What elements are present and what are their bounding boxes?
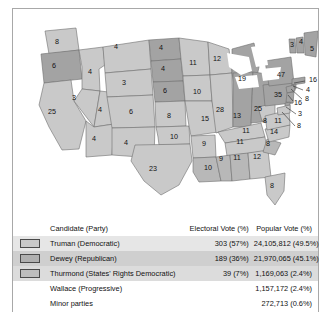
- header-electoral-vote: Electoral Vote (%): [188, 214, 254, 236]
- electoral-votes-tn: 11: [236, 137, 243, 146]
- candidate-name-dewey: Dewey (Republican): [47, 251, 187, 266]
- electoral-votes-il: 28: [216, 105, 224, 114]
- table-row: Wallace (Progressive)1,157,172 (2.4%): [13, 281, 318, 296]
- electoral-votes-sc: 8: [266, 139, 270, 148]
- state-sd: [151, 59, 183, 82]
- electoral-votes-mn: 11: [189, 58, 196, 67]
- electoral-vote-truman: 303 (57%): [188, 236, 254, 251]
- map-container: 8625434443644468102311101591012281913251…: [13, 9, 318, 214]
- popular-vote-truman: 24,105,812 (49.5%): [254, 236, 318, 251]
- electoral-votes-mi: 19: [238, 74, 246, 83]
- electoral-votes-wv: 8: [263, 116, 267, 125]
- electoral-votes-al: 11: [233, 153, 240, 162]
- electoral-votes-ia: 10: [193, 87, 201, 96]
- electoral-vote-wallace: [188, 281, 254, 296]
- electoral-votes-ct: 8: [305, 94, 309, 103]
- candidate-name-minor: Minor parties: [47, 296, 187, 311]
- electoral-votes-va: 11: [274, 116, 281, 125]
- candidate-name-thurmond: Thurmond (States' Rights Democratic): [47, 266, 187, 281]
- table-header-row: Candidate (Party) Electoral Vote (%) Pop…: [13, 214, 318, 236]
- electoral-votes-nc: 14: [270, 127, 278, 136]
- popular-vote-wallace: 1,157,172 (2.4%): [254, 281, 318, 296]
- electoral-votes-ma: 16: [309, 75, 317, 84]
- header-swatch-spacer: [13, 214, 47, 236]
- legend-swatch-cell: [13, 236, 47, 251]
- electoral-votes-nj: 16: [294, 98, 302, 107]
- electoral-votes-oh: 25: [254, 104, 262, 113]
- legend-swatch-cell: [13, 281, 47, 296]
- electoral-votes-wy: 3: [122, 78, 126, 87]
- electoral-vote-thurmond: 39 (7%): [188, 266, 254, 281]
- electoral-votes-de: 3: [298, 109, 302, 118]
- electoral-votes-pa: 35: [274, 90, 282, 99]
- electoral-votes-ok: 10: [170, 132, 178, 141]
- table-row: Minor parties272,713 (0.6%): [13, 296, 318, 311]
- electoral-votes-ms: 9: [219, 154, 223, 163]
- state-or: [41, 50, 82, 83]
- electoral-votes-wi: 12: [213, 54, 221, 63]
- state-az: [86, 121, 114, 157]
- electoral-votes-az: 4: [92, 134, 96, 143]
- electoral-votes-ar: 9: [202, 139, 206, 148]
- electoral-vote-minor: [188, 296, 254, 311]
- results-table-container: Candidate (Party) Electoral Vote (%) Pop…: [13, 214, 318, 312]
- popular-vote-thurmond: 1,169,063 (2.4%): [254, 266, 318, 281]
- table-row: Dewey (Republican)189 (36%)21,970,065 (4…: [13, 251, 318, 266]
- electoral-votes-me: 5: [310, 44, 314, 53]
- popular-vote-dewey: 21,970,065 (45.1%): [254, 251, 318, 266]
- electoral-votes-ny: 47: [277, 70, 285, 79]
- electoral-votes-nd: 4: [159, 43, 163, 52]
- electoral-votes-tx: 23: [149, 164, 157, 173]
- electoral-votes-ca: 25: [48, 107, 56, 116]
- electoral-votes-la: 10: [204, 163, 212, 172]
- header-candidate: Candidate (Party): [47, 214, 187, 236]
- popular-vote-minor: 272,713 (0.6%): [254, 296, 318, 311]
- electoral-votes-mo: 15: [201, 114, 209, 123]
- legend-swatch-cell: [13, 266, 47, 281]
- electoral-votes-wa: 8: [55, 37, 59, 46]
- electoral-votes-ks: 8: [167, 111, 171, 120]
- electoral-votes-nm: 4: [124, 138, 128, 147]
- election-figure: 8625434443644468102311101591012281913251…: [12, 8, 319, 312]
- legend-swatch-cell: [13, 251, 47, 266]
- electoral-votes-fl: 8: [270, 181, 274, 190]
- electoral-votes-nv: 3: [72, 93, 76, 102]
- electoral-votes-ky: 11: [242, 126, 249, 135]
- candidate-name-wallace: Wallace (Progressive): [47, 281, 187, 296]
- electoral-votes-id: 4: [88, 67, 92, 76]
- state-wy: [105, 69, 153, 97]
- electoral-votes-ut: 4: [98, 105, 102, 114]
- legend-swatch-thurmond: [20, 269, 40, 278]
- candidate-name-truman: Truman (Democratic): [47, 236, 187, 251]
- united-states-map: 8625434443644468102311101591012281913251…: [13, 9, 318, 214]
- state-wa: [45, 28, 79, 54]
- electoral-votes-vt: 3: [290, 40, 294, 49]
- electoral-votes-ga: 12: [253, 152, 261, 161]
- electoral-votes-co: 6: [129, 107, 133, 116]
- state-nd: [149, 38, 181, 61]
- results-table: Candidate (Party) Electoral Vote (%) Pop…: [13, 214, 318, 311]
- electoral-votes-mt: 4: [114, 42, 118, 51]
- legend-swatch-dewey: [20, 254, 40, 263]
- state-ne: [153, 81, 185, 102]
- electoral-votes-in: 13: [233, 111, 241, 120]
- legend-swatch-truman: [20, 239, 40, 248]
- electoral-votes-or: 6: [52, 61, 56, 70]
- electoral-vote-dewey: 189 (36%): [188, 251, 254, 266]
- electoral-votes-ne: 6: [163, 86, 167, 95]
- electoral-votes-ri: 4: [306, 85, 310, 94]
- electoral-votes-nh: 4: [299, 37, 303, 46]
- electoral-votes-md: 8: [297, 121, 301, 130]
- legend-swatch-cell: [13, 296, 47, 311]
- electoral-votes-sd: 4: [161, 64, 165, 73]
- table-row: Truman (Democratic)303 (57%)24,105,812 (…: [13, 236, 318, 251]
- table-row: Thurmond (States' Rights Democratic)39 (…: [13, 266, 318, 281]
- header-popular-vote: Popular Vote (%): [254, 214, 318, 236]
